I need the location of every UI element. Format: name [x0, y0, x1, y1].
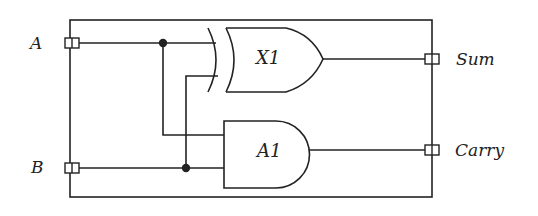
input-label-a: A [30, 35, 42, 52]
component-boundary [70, 20, 432, 197]
gate-label-a1: A1 [257, 142, 281, 160]
wire-b-to-xor [186, 76, 218, 168]
output-label-sum: Sum [456, 51, 495, 68]
output-label-carry: Carry [455, 142, 504, 159]
input-label-b: B [31, 159, 44, 176]
gate-label-x1: X1 [256, 49, 280, 67]
half-adder-diagram [0, 0, 538, 216]
junction-a [159, 39, 167, 47]
junction-b [182, 164, 190, 172]
wire-a-to-and [163, 43, 224, 135]
